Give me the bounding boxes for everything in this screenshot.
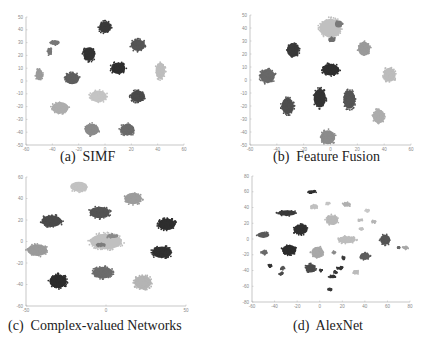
caption-c: (c) Complex-valued Networks	[8, 318, 182, 334]
svg-text:40: 40	[155, 147, 161, 152]
svg-text:80: 80	[244, 174, 250, 179]
scatter-plot-b: -50-40-30-20-1001020304050-60-40-2002040…	[213, 0, 426, 150]
svg-text:60: 60	[18, 175, 24, 180]
svg-text:0: 0	[318, 304, 321, 309]
subplot-d: -80-60-40-20020406080-60-40-20020406080 …	[213, 171, 426, 342]
clusters	[34, 20, 166, 137]
svg-text:50: 50	[18, 15, 24, 20]
svg-text:-40: -40	[271, 304, 278, 309]
svg-text:40: 40	[244, 205, 250, 210]
svg-text:-20: -20	[16, 104, 23, 109]
svg-text:-40: -40	[16, 130, 23, 135]
svg-text:60: 60	[385, 304, 391, 309]
svg-text:30: 30	[18, 40, 24, 45]
svg-text:20: 20	[129, 147, 135, 152]
svg-text:30: 30	[242, 39, 248, 44]
svg-text:-10: -10	[16, 91, 23, 96]
svg-text:20: 20	[18, 218, 24, 223]
scatter-plot-a: -50-40-30-20-1001020304050-60-40-2002040…	[0, 0, 213, 150]
scatter-plot-d: -80-60-40-20020406080-60-40-20020406080	[213, 171, 426, 311]
svg-text:40: 40	[18, 196, 24, 201]
svg-text:-50: -50	[23, 308, 30, 313]
caption-d: (d) AlexNet	[293, 318, 363, 334]
svg-text:40: 40	[362, 304, 368, 309]
svg-text:60: 60	[244, 189, 250, 194]
svg-text:80: 80	[407, 304, 413, 309]
svg-text:50: 50	[242, 13, 248, 18]
svg-text:60: 60	[181, 147, 187, 152]
svg-text:-20: -20	[294, 304, 301, 309]
svg-text:-20: -20	[242, 252, 249, 257]
svg-text:20: 20	[244, 221, 250, 226]
clusters	[256, 190, 409, 292]
subplot-c: -60-40-200204060-50050 (c) Complex-value…	[0, 171, 213, 342]
svg-text:0: 0	[246, 237, 249, 242]
svg-text:10: 10	[18, 66, 24, 71]
svg-text:40: 40	[18, 27, 24, 32]
svg-text:20: 20	[242, 52, 248, 57]
svg-text:50: 50	[183, 308, 189, 313]
svg-text:10: 10	[242, 65, 248, 70]
svg-text:-20: -20	[240, 104, 247, 109]
svg-text:-30: -30	[240, 117, 247, 122]
svg-text:40: 40	[242, 26, 248, 31]
svg-text:0: 0	[105, 308, 108, 313]
svg-text:-40: -40	[16, 282, 23, 287]
svg-text:-60: -60	[249, 304, 256, 309]
svg-text:-10: -10	[240, 91, 247, 96]
svg-text:40: 40	[382, 147, 388, 152]
subplot-b: -50-40-30-20-1001020304050-60-40-2002040…	[213, 0, 426, 171]
svg-text:-60: -60	[247, 147, 254, 152]
subplot-a: -50-40-30-20-1001020304050-60-40-2002040…	[0, 0, 213, 171]
svg-text:0: 0	[20, 79, 23, 84]
svg-text:-40: -40	[242, 268, 249, 273]
caption-b: (b) Feature Fusion	[273, 149, 380, 165]
svg-text:-40: -40	[49, 147, 56, 152]
clusters	[25, 182, 177, 291]
svg-text:-40: -40	[240, 130, 247, 135]
svg-text:-60: -60	[242, 284, 249, 289]
svg-text:-60: -60	[23, 147, 30, 152]
clusters	[259, 16, 397, 144]
svg-text:20: 20	[340, 304, 346, 309]
svg-text:60: 60	[408, 147, 414, 152]
svg-text:0: 0	[20, 239, 23, 244]
scatter-plot-c: -60-40-200204060-50050	[0, 171, 213, 311]
svg-text:0: 0	[244, 78, 247, 83]
caption-a: (a) SIMF	[60, 149, 115, 165]
svg-text:-20: -20	[16, 261, 23, 266]
svg-text:20: 20	[18, 53, 24, 58]
svg-text:-30: -30	[16, 117, 23, 122]
